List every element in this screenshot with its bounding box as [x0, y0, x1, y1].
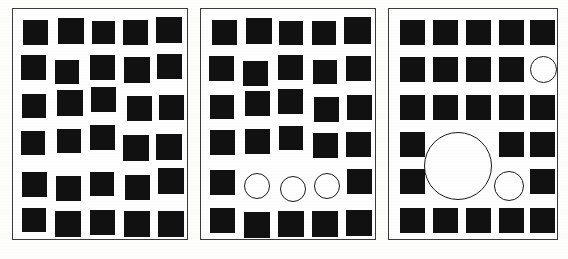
filled-square-shape: [158, 211, 184, 237]
filled-square-shape: [530, 208, 555, 233]
filled-square-shape: [346, 56, 371, 81]
filled-square-shape: [156, 134, 182, 160]
filled-square-shape: [400, 57, 425, 82]
filled-square-shape: [313, 133, 338, 158]
filled-square-shape: [158, 168, 184, 194]
filled-square-shape: [125, 175, 150, 200]
filled-square-shape: [210, 130, 235, 155]
filled-square-shape: [210, 208, 235, 233]
filled-square-shape: [159, 95, 184, 120]
filled-square-shape: [279, 21, 303, 45]
filled-square-shape: [21, 131, 45, 155]
filled-square-shape: [22, 208, 46, 232]
filled-square-shape: [313, 60, 337, 84]
filled-square-shape: [209, 56, 234, 81]
filled-square-shape: [433, 208, 458, 233]
filled-square-shape: [90, 55, 115, 80]
open-circle-shape: [494, 171, 524, 201]
filled-square-shape: [400, 208, 425, 233]
filled-square-shape: [210, 170, 235, 195]
filled-square-shape: [56, 176, 81, 201]
filled-square-shape: [499, 95, 524, 120]
filled-square-shape: [55, 211, 81, 237]
filled-square-shape: [433, 20, 458, 45]
filled-square-shape: [55, 60, 79, 84]
filled-square-shape: [90, 210, 115, 235]
filled-square-shape: [123, 135, 149, 161]
figure-container: [0, 0, 568, 259]
panel-right-content: [389, 9, 557, 239]
filled-square-shape: [90, 125, 115, 150]
filled-square-shape: [466, 20, 491, 45]
filled-square-shape: [400, 132, 425, 157]
filled-square-shape: [347, 169, 372, 194]
filled-square-shape: [123, 20, 148, 45]
filled-square-shape: [156, 17, 182, 43]
panel-left-content: [13, 9, 187, 239]
filled-square-shape: [312, 21, 336, 45]
filled-square-shape: [530, 20, 555, 45]
panel-middle: [200, 8, 376, 240]
filled-square-shape: [346, 132, 371, 157]
filled-square-shape: [400, 20, 425, 45]
open-circle-shape: [424, 132, 492, 200]
open-circle-shape: [244, 173, 270, 199]
filled-square-shape: [530, 132, 555, 157]
filled-square-shape: [466, 95, 491, 120]
filled-square-shape: [279, 126, 303, 150]
open-circle-shape: [314, 173, 340, 199]
filled-square-shape: [23, 20, 48, 45]
filled-square-shape: [344, 17, 371, 44]
open-circle-shape: [530, 56, 557, 83]
filled-square-shape: [245, 91, 270, 116]
filled-square-shape: [499, 132, 524, 157]
filled-square-shape: [22, 172, 47, 197]
filled-square-shape: [433, 95, 458, 120]
filled-square-shape: [92, 21, 115, 44]
filled-square-shape: [347, 95, 372, 120]
filled-square-shape: [22, 94, 46, 118]
filled-square-shape: [212, 20, 237, 45]
panel-left: [12, 8, 188, 240]
filled-square-shape: [246, 18, 272, 44]
filled-square-shape: [466, 57, 491, 82]
filled-square-shape: [243, 61, 268, 86]
filled-square-shape: [157, 54, 182, 79]
filled-square-shape: [499, 57, 524, 82]
filled-square-shape: [210, 95, 234, 119]
filled-square-shape: [400, 169, 425, 194]
open-circle-shape: [280, 176, 306, 202]
panel-middle-content: [201, 9, 375, 239]
filled-square-shape: [530, 95, 555, 120]
filled-square-shape: [278, 89, 303, 114]
filled-square-shape: [127, 96, 152, 121]
filled-square-shape: [278, 211, 304, 237]
filled-square-shape: [499, 208, 524, 233]
filled-square-shape: [530, 169, 555, 194]
filled-square-shape: [346, 210, 372, 236]
filled-square-shape: [57, 90, 83, 116]
filled-square-shape: [91, 87, 116, 112]
filled-square-shape: [314, 97, 339, 122]
filled-square-shape: [124, 211, 150, 237]
filled-square-shape: [57, 129, 81, 153]
panel-right: [388, 8, 558, 240]
filled-square-shape: [278, 55, 303, 80]
filled-square-shape: [433, 57, 458, 82]
filled-square-shape: [244, 212, 270, 238]
filled-square-shape: [21, 55, 46, 80]
filled-square-shape: [245, 129, 270, 154]
filled-square-shape: [499, 20, 524, 45]
filled-square-shape: [400, 95, 425, 120]
filled-square-shape: [312, 211, 338, 237]
filled-square-shape: [124, 57, 150, 83]
filled-square-shape: [58, 18, 84, 44]
filled-square-shape: [466, 208, 491, 233]
filled-square-shape: [90, 172, 114, 196]
figure-caption: [0, 241, 568, 259]
